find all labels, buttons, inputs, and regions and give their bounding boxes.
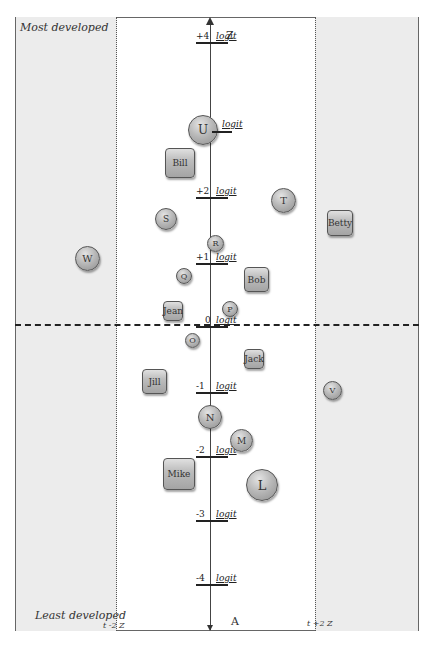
tick-mark-u xyxy=(212,131,232,133)
item-node-t: T xyxy=(271,188,296,213)
tick-mark xyxy=(196,326,228,328)
tick-unit-label: logit xyxy=(216,252,237,262)
most-developed-label: Most developed xyxy=(20,21,108,34)
tick-value: +1 xyxy=(196,252,209,262)
person-node-jack: Jack xyxy=(244,349,264,369)
tick-mark xyxy=(196,42,228,44)
tick-mark xyxy=(196,392,228,394)
tick-unit-label: logit xyxy=(216,573,237,583)
tick-value: -1 xyxy=(196,381,205,391)
item-node-n: N xyxy=(198,405,222,429)
arrow-down-icon xyxy=(207,625,213,631)
tick-mark xyxy=(196,197,228,199)
tick-unit-label: logit xyxy=(216,186,237,196)
item-node-v: V xyxy=(323,381,342,400)
tick-value: -3 xyxy=(196,509,205,519)
tick-value: -4 xyxy=(196,573,205,583)
right-boundary-label: t +2 Z xyxy=(307,619,333,628)
tick-mark xyxy=(196,520,228,522)
tick-value: +2 xyxy=(196,186,209,196)
tick-value: +4 xyxy=(196,31,209,41)
tick-mark xyxy=(196,456,228,458)
item-node-r: R xyxy=(207,235,224,252)
item-node-o: O xyxy=(185,333,200,348)
person-node-bill: Bill xyxy=(165,148,195,178)
tick-mark xyxy=(196,263,228,265)
arrow-up-icon xyxy=(206,17,214,25)
item-node-m: M xyxy=(230,429,253,452)
tick-value: 0 xyxy=(205,315,211,325)
person-node-mike: Mike xyxy=(163,458,195,490)
item-node-w: W xyxy=(75,246,100,271)
tick-unit-label: logit xyxy=(216,31,237,41)
tick-unit-label-u: logit xyxy=(222,119,243,129)
item-node-q: Q xyxy=(176,268,192,284)
tick-mark xyxy=(196,584,228,586)
tick-unit-label: logit xyxy=(216,509,237,519)
item-node-s: S xyxy=(155,208,177,230)
person-node-jill: Jill xyxy=(142,369,167,394)
item-node-l: L xyxy=(246,469,278,501)
person-node-bob: Bob xyxy=(244,267,269,292)
tick-value: -2 xyxy=(196,445,205,455)
axis-bottom-label: A xyxy=(231,615,239,628)
item-node-p: P xyxy=(222,301,238,317)
person-node-betty: Betty xyxy=(327,210,353,236)
person-node-jean: Jean xyxy=(163,301,183,321)
left-boundary-label: t -2 Z xyxy=(103,621,125,630)
tick-unit-label: logit xyxy=(216,381,237,391)
item-node-u: U xyxy=(188,115,218,145)
